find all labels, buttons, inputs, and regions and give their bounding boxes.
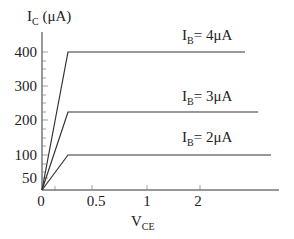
x-tick-label: 0	[37, 193, 45, 209]
chart: 400 300 200 100 50 0 0.5 1 2 IC (μA) VCE…	[0, 0, 294, 239]
curve-label-ib-4ua: IB= 4μA	[182, 27, 232, 46]
x-ticks	[55, 185, 200, 190]
x-tick-label: 1	[143, 193, 151, 209]
y-axis-label: IC (μA)	[27, 8, 71, 27]
curve-ib-2ua	[42, 155, 271, 190]
curve-label-ib-2ua: IB= 2μA	[182, 129, 232, 148]
curve-label-ib-3ua: IB= 3μA	[182, 88, 232, 107]
y-tick-label: 50	[22, 170, 37, 186]
y-minor-ticks	[42, 52, 48, 178]
y-tick-label: 400	[15, 44, 38, 60]
x-axis-label: VCE	[131, 213, 155, 232]
x-tick-label: 2	[194, 193, 202, 209]
y-tick-label: 300	[15, 78, 38, 94]
curve-ib-3ua	[42, 112, 258, 190]
curve-ib-4ua	[42, 52, 245, 190]
x-tick-label: 0.5	[87, 193, 106, 209]
y-tick-label: 200	[15, 112, 38, 128]
y-tick-label: 100	[15, 147, 38, 163]
